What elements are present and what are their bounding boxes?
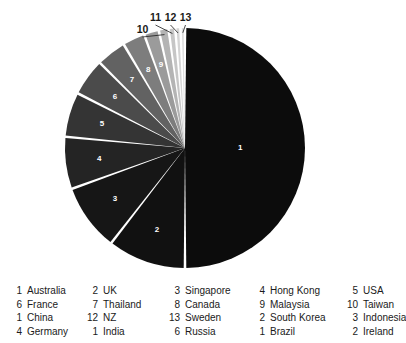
legend-item-number: 13 <box>158 311 185 325</box>
pie-slice-label-7: 7 <box>130 75 135 84</box>
pie-slice-label-3: 3 <box>113 194 118 203</box>
legend-item-india[interactable]: 1India <box>76 325 158 339</box>
pie-slice-1[interactable] <box>185 28 305 268</box>
legend-row: 4Germany1India6Russia1Brazil2Ireland <box>0 325 388 339</box>
pie-chart-area: 12345678910111213 <box>0 0 388 280</box>
legend-item-usa[interactable]: 5USA <box>336 284 388 298</box>
legend-item-label: China <box>27 311 53 325</box>
pie-slice-label-6: 6 <box>113 92 118 101</box>
pie-slice-label-8: 8 <box>146 65 151 74</box>
legend-item-australia[interactable]: 1Australia <box>0 284 76 298</box>
legend-row: 6France7Thailand8Canada9Malaysia10Taiwan <box>0 298 388 312</box>
legend-item-number: 1 <box>243 325 270 339</box>
legend-item-label: South Korea <box>270 311 326 325</box>
legend-item-germany[interactable]: 4Germany <box>0 325 76 339</box>
legend-item-number: 4 <box>0 325 27 339</box>
pie-slices-group <box>65 28 305 268</box>
legend-item-label: Brazil <box>270 325 295 339</box>
legend-item-number: 1 <box>0 284 27 298</box>
legend-item-china[interactable]: 1China <box>0 311 76 325</box>
legend-item-number: 10 <box>336 298 363 312</box>
legend-item-number: 6 <box>0 298 27 312</box>
pie-slice-label-10: 10 <box>137 23 149 35</box>
legend-item-label: Singapore <box>185 284 231 298</box>
legend-item-number: 9 <box>243 298 270 312</box>
pie-chart-svg: 12345678910111213 <box>0 0 388 280</box>
legend-item-label: Russia <box>185 325 216 339</box>
pie-slice-label-13: 13 <box>180 11 192 23</box>
legend-item-singapore[interactable]: 3Singapore <box>158 284 243 298</box>
legend-item-number: 2 <box>243 311 270 325</box>
pie-slice-label-12: 12 <box>165 11 177 23</box>
legend-item-number: 8 <box>158 298 185 312</box>
legend-item-france[interactable]: 6France <box>0 298 76 312</box>
legend-item-hong-kong[interactable]: 4Hong Kong <box>243 284 336 298</box>
legend-item-number: 2 <box>336 325 363 339</box>
pie-slice-label-5: 5 <box>100 119 105 128</box>
legend-item-number: 5 <box>336 284 363 298</box>
legend-item-number: 7 <box>76 298 103 312</box>
legend-item-number: 1 <box>76 325 103 339</box>
pie-slice-label-4: 4 <box>97 154 102 163</box>
legend-item-label: Australia <box>27 284 66 298</box>
legend: 1Australia2UK3Singapore4Hong Kong5USA6Fr… <box>0 284 388 343</box>
legend-item-number: 2 <box>76 284 103 298</box>
legend-row: 1Australia2UK3Singapore4Hong Kong5USA <box>0 284 388 298</box>
pie-slice-label-9: 9 <box>159 60 164 69</box>
legend-item-label: Indonesia <box>363 311 406 325</box>
legend-item-label: Canada <box>185 298 220 312</box>
pie-slice-label-1: 1 <box>238 143 243 152</box>
legend-item-number: 3 <box>336 311 363 325</box>
legend-item-label: Thailand <box>103 298 141 312</box>
legend-item-label: UK <box>103 284 117 298</box>
legend-item-taiwan[interactable]: 10Taiwan <box>336 298 388 312</box>
legend-item-number: 3 <box>158 284 185 298</box>
legend-item-malaysia[interactable]: 9Malaysia <box>243 298 336 312</box>
legend-item-sweden[interactable]: 13Sweden <box>158 311 243 325</box>
legend-item-label: USA <box>363 284 384 298</box>
legend-item-indonesia[interactable]: 3Indonesia <box>336 311 388 325</box>
legend-item-label: Ireland <box>363 325 394 339</box>
pie-slice-label-2: 2 <box>155 225 160 234</box>
pie-slice-label-11: 11 <box>150 11 161 23</box>
legend-item-brazil[interactable]: 1Brazil <box>243 325 336 339</box>
legend-item-label: Germany <box>27 325 68 339</box>
legend-item-ireland[interactable]: 2Ireland <box>336 325 388 339</box>
legend-item-south-korea[interactable]: 2South Korea <box>243 311 336 325</box>
legend-item-russia[interactable]: 6Russia <box>158 325 243 339</box>
legend-item-label: Taiwan <box>363 298 394 312</box>
legend-item-label: NZ <box>103 311 116 325</box>
legend-item-uk[interactable]: 2UK <box>76 284 158 298</box>
legend-item-canada[interactable]: 8Canada <box>158 298 243 312</box>
legend-item-nz[interactable]: 12NZ <box>76 311 158 325</box>
legend-row: 1China12NZ13Sweden2South Korea3Indonesia <box>0 311 388 325</box>
legend-item-number: 4 <box>243 284 270 298</box>
legend-item-label: Hong Kong <box>270 284 320 298</box>
legend-item-number: 1 <box>0 311 27 325</box>
legend-item-number: 12 <box>76 311 103 325</box>
legend-item-thailand[interactable]: 7Thailand <box>76 298 158 312</box>
legend-item-label: France <box>27 298 58 312</box>
legend-item-label: Malaysia <box>270 298 309 312</box>
legend-item-number: 6 <box>158 325 185 339</box>
legend-item-label: India <box>103 325 125 339</box>
legend-item-label: Sweden <box>185 311 221 325</box>
